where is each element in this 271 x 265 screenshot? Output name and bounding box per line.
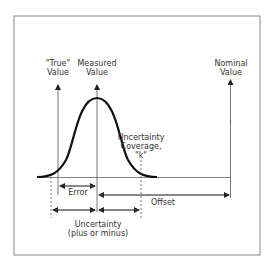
error-label: Error <box>65 188 91 197</box>
true-value-label-line1: "True" <box>42 59 74 68</box>
uncertainty-coverage-label-line2: Coverage, <box>116 142 166 151</box>
true-value-label: "True" Value <box>42 59 74 77</box>
uncertainty-label-line1: Uncertainty <box>66 220 130 229</box>
measured-value-label-line1: Measured <box>77 59 117 68</box>
uncertainty-coverage-label: Uncertainty Coverage, "k" <box>116 133 166 160</box>
measured-value-label: Measured Value <box>77 59 117 77</box>
uncertainty-coverage-label-line3: "k" <box>116 151 166 160</box>
true-value-label-line2: Value <box>42 68 74 77</box>
measurement-uncertainty-diagram: "True" Value Measured Value Nominal Valu… <box>0 0 271 265</box>
nominal-value-label-line1: Nominal <box>212 59 250 68</box>
nominal-value-label-line2: Value <box>212 68 250 77</box>
uncertainty-coverage-label-line1: Uncertainty <box>116 133 166 142</box>
nominal-value-label: Nominal Value <box>212 59 250 77</box>
uncertainty-label-line2: (plus or minus) <box>66 229 130 238</box>
uncertainty-label: Uncertainty (plus or minus) <box>66 220 130 238</box>
offset-label: Offset <box>148 198 178 207</box>
measured-value-label-line2: Value <box>77 68 117 77</box>
